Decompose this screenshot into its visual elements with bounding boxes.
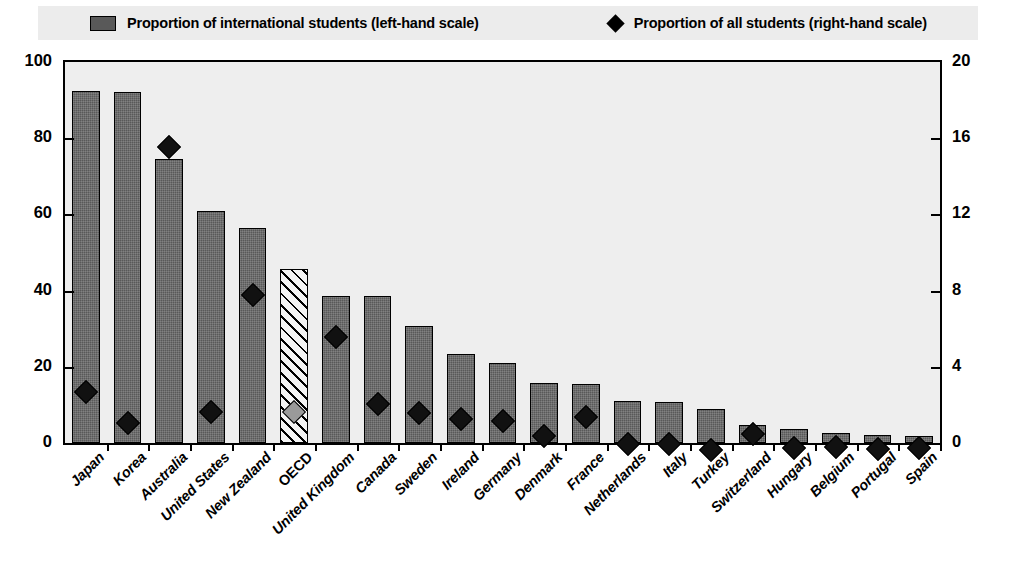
legend-item-all-students: Proportion of all students (right-hand s… [609, 15, 927, 31]
category-label-japan: Japan [67, 449, 107, 489]
category-label-korea: Korea [109, 449, 149, 489]
bar-australia [155, 159, 183, 443]
left-axis-tick [65, 138, 74, 140]
category-label-italy: Italy [659, 449, 690, 480]
left-axis-tick-label: 80 [34, 127, 52, 146]
left-axis-tick [65, 367, 74, 369]
left-axis: 020406080100 [0, 60, 52, 441]
left-axis-tick [65, 214, 74, 216]
diamond-marker-australia [157, 135, 181, 159]
category-label-oecd: OECD [275, 449, 315, 489]
left-axis-tick-label: 0 [43, 432, 52, 451]
category-label-sweden: Sweden [391, 449, 440, 498]
plot-area [63, 60, 942, 445]
right-axis-tick-label: 20 [952, 51, 970, 70]
left-axis-tick-label: 20 [34, 355, 52, 374]
category-label-spain: Spain [902, 449, 941, 488]
x-tick [940, 443, 942, 451]
legend-label-international-students: Proportion of international students (le… [127, 15, 479, 31]
legend-item-international-students: Proportion of international students (le… [90, 15, 479, 31]
right-axis-tick-label: 16 [952, 127, 970, 146]
right-axis-tick-label: 0 [952, 432, 961, 451]
right-axis-tick-label: 12 [952, 203, 970, 222]
bar-united-kingdom [322, 296, 350, 443]
bar-sweden [405, 326, 433, 443]
chart-legend: Proportion of international students (le… [38, 6, 978, 40]
right-axis-tick [931, 291, 940, 293]
category-axis-labels: JapanKoreaAustraliaUnited StatesNew Zeal… [63, 443, 938, 572]
right-axis: 048121620 [952, 60, 1012, 441]
chart-container: Proportion of international students (le… [0, 0, 1015, 572]
bar-korea [114, 92, 142, 443]
right-axis-tick [931, 367, 940, 369]
right-axis-tick [931, 214, 940, 216]
left-axis-tick-label: 100 [24, 51, 52, 70]
left-axis-tick [65, 291, 74, 293]
bar-swatch-icon [90, 16, 116, 31]
bar-canada [364, 296, 392, 443]
right-axis-tick [931, 138, 940, 140]
right-axis-tick-label: 4 [952, 355, 961, 374]
right-axis-tick-label: 8 [952, 279, 961, 298]
left-axis-tick-label: 40 [34, 279, 52, 298]
diamond-icon [606, 14, 624, 32]
category-label-canada: Canada [351, 449, 399, 497]
bar-new-zealand [239, 228, 267, 443]
left-axis-tick-label: 60 [34, 203, 52, 222]
legend-label-all-students: Proportion of all students (right-hand s… [634, 15, 927, 31]
